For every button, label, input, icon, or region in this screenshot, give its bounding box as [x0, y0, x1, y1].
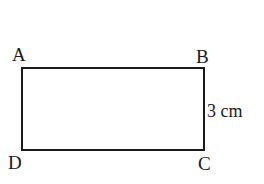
rectangle-abcd: [21, 67, 205, 151]
vertex-label-d: D: [8, 153, 22, 172]
side-length-bc: 3 cm: [207, 102, 243, 120]
vertex-label-b: B: [196, 47, 209, 66]
vertex-label-c: C: [198, 154, 211, 173]
vertex-label-a: A: [12, 45, 26, 64]
diagram-canvas: A B C D 3 cm: [0, 0, 264, 184]
